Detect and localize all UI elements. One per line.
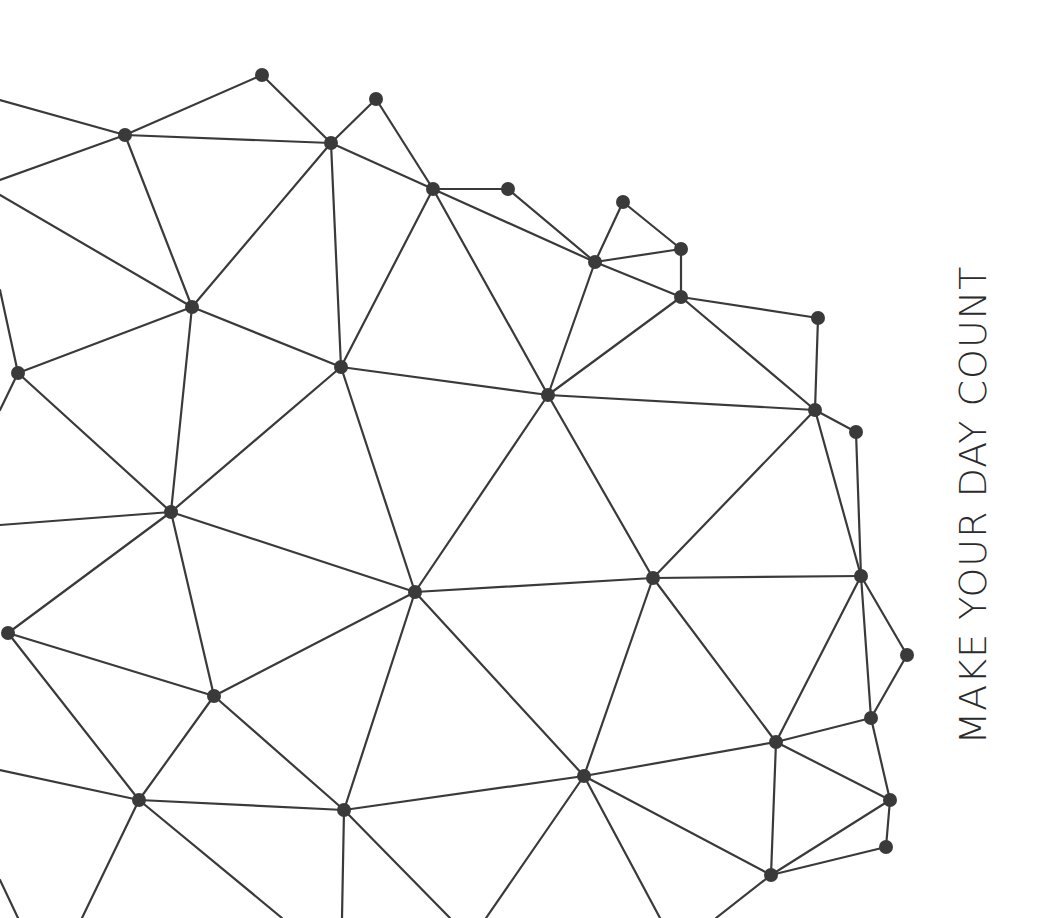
network-edge xyxy=(0,290,18,373)
network-edge xyxy=(192,143,331,307)
network-node xyxy=(255,68,269,82)
network-edge xyxy=(771,742,776,875)
network-edge xyxy=(776,576,861,742)
network-edge xyxy=(125,135,331,143)
network-edge xyxy=(171,367,341,512)
network-edge xyxy=(331,99,376,143)
network-edge xyxy=(344,810,450,918)
network-node xyxy=(764,868,778,882)
network-edge xyxy=(653,410,815,578)
network-edge xyxy=(341,367,548,395)
network-edge xyxy=(0,512,171,525)
network-edge xyxy=(8,633,214,696)
network-node xyxy=(808,403,822,417)
network-node xyxy=(900,648,914,662)
network-edge xyxy=(192,307,341,367)
network-node xyxy=(811,311,825,325)
network-edge xyxy=(344,776,584,810)
network-node xyxy=(674,290,688,304)
network-node xyxy=(646,571,660,585)
network-node xyxy=(1,626,15,640)
network-edge xyxy=(125,75,262,135)
network-edge xyxy=(716,875,771,918)
network-edge xyxy=(776,718,871,742)
network-edge xyxy=(548,395,815,410)
network-edge xyxy=(171,512,415,592)
network-edge xyxy=(486,776,584,918)
network-edge xyxy=(584,578,653,776)
network-node xyxy=(11,366,25,380)
network-edge xyxy=(341,367,415,592)
network-edge xyxy=(331,143,341,367)
network-edge xyxy=(776,742,890,800)
network-node xyxy=(674,242,688,256)
network-edge xyxy=(214,696,344,810)
network-edge xyxy=(548,262,595,395)
network-node xyxy=(769,735,783,749)
network-node xyxy=(541,388,555,402)
network-edge xyxy=(341,189,433,367)
network-edge xyxy=(0,195,192,307)
network-edge xyxy=(886,800,890,847)
network-node xyxy=(849,425,863,439)
network-edge xyxy=(415,592,584,776)
network-edge xyxy=(595,202,623,262)
network-edge xyxy=(0,100,125,135)
network-edge xyxy=(125,135,192,307)
network-edge xyxy=(139,800,282,918)
network-edge xyxy=(548,395,653,578)
network-edge xyxy=(342,810,344,918)
network-diagram xyxy=(0,0,1053,918)
network-edge xyxy=(653,576,861,578)
network-edge xyxy=(871,718,890,800)
network-edge xyxy=(861,576,871,718)
network-edge xyxy=(0,135,125,180)
network-node xyxy=(369,92,383,106)
network-edge xyxy=(433,189,595,262)
network-node xyxy=(879,840,893,854)
network-node xyxy=(408,585,422,599)
network-edge xyxy=(82,800,139,918)
network-node xyxy=(588,255,602,269)
network-node xyxy=(883,793,897,807)
network-edge xyxy=(344,592,415,810)
network-edge xyxy=(623,202,681,249)
network-edge xyxy=(0,880,18,918)
network-node xyxy=(426,182,440,196)
network-edge xyxy=(508,189,595,262)
network-node xyxy=(185,300,199,314)
network-edge xyxy=(861,576,907,655)
network-node xyxy=(334,360,348,374)
network-node xyxy=(164,505,178,519)
network-node xyxy=(864,711,878,725)
network-edge xyxy=(415,395,548,592)
network-node xyxy=(854,569,868,583)
network-edge xyxy=(584,776,771,875)
network-edges xyxy=(0,75,907,918)
network-edge xyxy=(262,75,331,143)
network-node xyxy=(132,793,146,807)
network-edge xyxy=(771,847,886,875)
network-edge xyxy=(584,742,776,776)
network-node xyxy=(324,136,338,150)
network-node xyxy=(118,128,132,142)
network-edge xyxy=(171,307,192,512)
network-edge xyxy=(18,373,171,512)
network-edge xyxy=(18,307,192,373)
network-edge xyxy=(595,249,681,262)
network-node xyxy=(616,195,630,209)
network-edge xyxy=(548,297,681,395)
network-edge xyxy=(653,578,776,742)
network-edge xyxy=(433,189,548,395)
network-edge xyxy=(8,512,171,633)
network-node xyxy=(577,769,591,783)
network-edge xyxy=(139,696,214,800)
network-nodes xyxy=(1,68,914,882)
network-edge xyxy=(815,318,818,410)
network-node xyxy=(501,182,515,196)
tagline-text: MAKE YOUR DAY COUNT xyxy=(951,266,995,745)
network-edge xyxy=(595,262,681,297)
network-edge xyxy=(415,578,653,592)
network-edge xyxy=(771,800,890,875)
network-edge xyxy=(871,655,907,718)
